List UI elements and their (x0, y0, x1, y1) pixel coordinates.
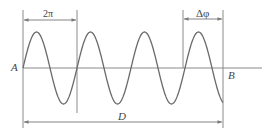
distance-label: D (118, 111, 126, 122)
period-label: 2π (43, 9, 53, 19)
phase-shift-label: Δφ (196, 8, 209, 19)
point-b-label: B (228, 70, 235, 81)
diagram-canvas (0, 0, 270, 134)
point-a-label: A (11, 62, 18, 73)
